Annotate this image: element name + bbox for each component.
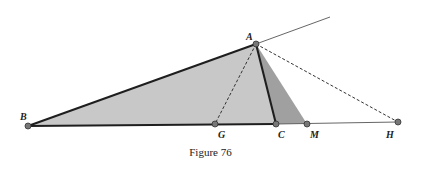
- label-m: M: [309, 129, 320, 140]
- point-c: [273, 121, 279, 127]
- label-h: H: [385, 129, 395, 140]
- point-g: [212, 121, 218, 127]
- triangle-abc-fill: [28, 44, 276, 126]
- point-b: [25, 123, 31, 129]
- label-a: A: [245, 31, 253, 42]
- label-b: B: [19, 111, 27, 122]
- ray-a-extension: [256, 17, 330, 44]
- label-g: G: [218, 129, 226, 140]
- point-a: [253, 41, 259, 47]
- label-c: C: [278, 129, 285, 140]
- geometry-figure: A B G C M H: [0, 0, 421, 169]
- figure-caption: Figure 76: [0, 146, 421, 158]
- point-m: [304, 121, 310, 127]
- point-h: [395, 119, 401, 125]
